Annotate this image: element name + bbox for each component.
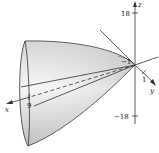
paraboloid-diagram: z 18 −18 −1 1 y x 9 bbox=[0, 0, 159, 153]
z-tick-bottom-label: −18 bbox=[114, 113, 129, 121]
x-axis-label: x bbox=[5, 106, 9, 114]
paraboloid-surface bbox=[20, 41, 135, 146]
y-tick-label: 1 bbox=[142, 76, 146, 84]
z-axis-label: z bbox=[137, 1, 142, 9]
x-tick-label: 9 bbox=[27, 102, 31, 110]
neg-y-tick-label: −1 bbox=[121, 58, 131, 66]
y-axis-label: y bbox=[149, 87, 155, 95]
z-tick-top-label: 18 bbox=[121, 10, 130, 18]
